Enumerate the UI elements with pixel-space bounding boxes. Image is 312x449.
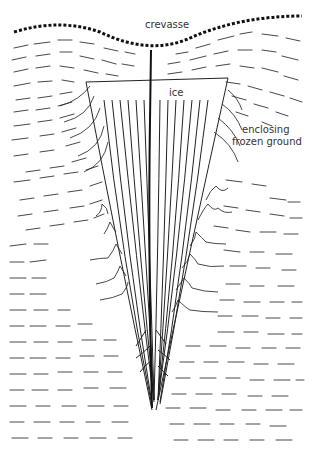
ice-wedge bbox=[86, 78, 228, 410]
ice-label: ice bbox=[169, 87, 183, 99]
ice-wedge-diagram bbox=[0, 0, 312, 449]
enclosing-ground-label-line1: enclosing bbox=[242, 124, 290, 136]
crevasse-label: crevasse bbox=[145, 19, 189, 31]
enclosing-ground-label-line2: frozen ground bbox=[232, 136, 302, 148]
frozen-ground-strata bbox=[10, 32, 304, 440]
